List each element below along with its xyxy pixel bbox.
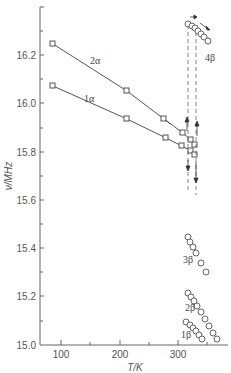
y-tick-label: 15.6 xyxy=(17,195,37,206)
chart: 16.2 16.0 15.8 15.6 15.4 15.2 15.0 100 2… xyxy=(0,0,231,373)
label-1a: 1α xyxy=(84,93,95,104)
label-3b: 3β xyxy=(183,254,193,265)
x-tick-label: 100 xyxy=(53,349,70,360)
y-tick-label: 15.2 xyxy=(17,291,37,302)
dashed-guides xyxy=(188,25,196,195)
label-2b: 2β xyxy=(185,302,195,313)
series-1a xyxy=(50,83,197,157)
y-axis xyxy=(40,7,44,345)
y-tick-label: 16.2 xyxy=(17,50,37,61)
series-4b xyxy=(185,21,211,44)
label-4b: 4β xyxy=(205,52,215,63)
x-tick-label: 300 xyxy=(170,349,187,360)
y-tick-label: 15.8 xyxy=(17,147,37,158)
y-axis-title: ν/MHz xyxy=(3,162,14,190)
label-1b: 1β xyxy=(181,329,191,340)
y-tick-label: 15.0 xyxy=(17,340,37,351)
x-axis-title: T/K xyxy=(127,362,144,373)
x-tick-label: 200 xyxy=(112,349,129,360)
y-tick-label: 15.4 xyxy=(17,243,37,254)
label-2a: 2α xyxy=(90,55,101,66)
y-tick-label: 16.0 xyxy=(17,98,37,109)
